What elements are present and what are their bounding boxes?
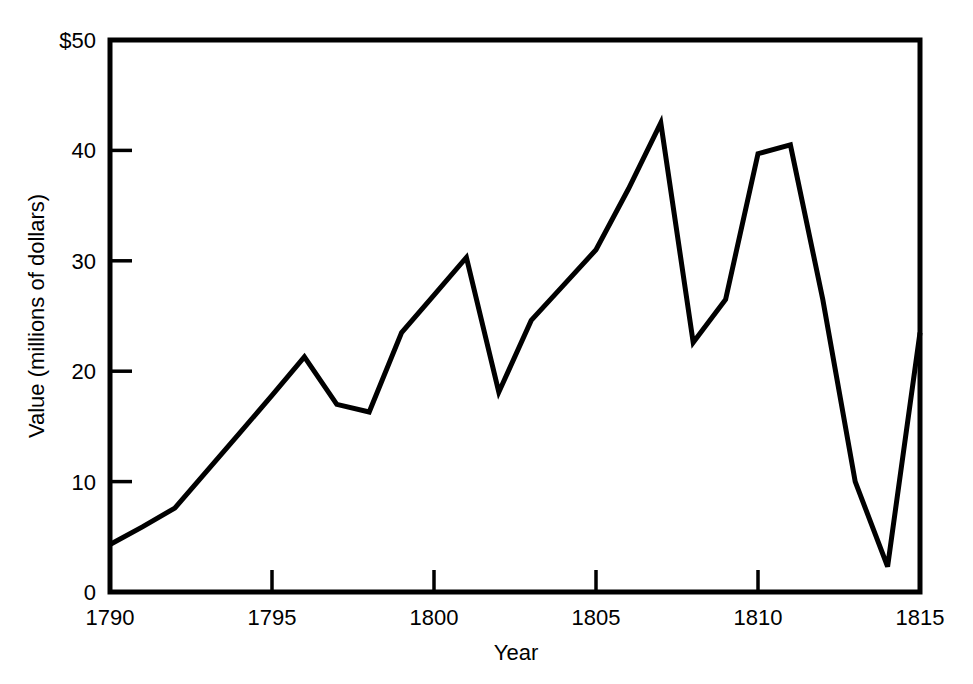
chart-figure: 010203040$50 179017951800180518101815 Ye… bbox=[0, 0, 973, 684]
y-tick-label-50: $50 bbox=[59, 28, 96, 53]
x-tick-label-1800: 1800 bbox=[410, 605, 459, 630]
y-axis-title: Value (millions of dollars) bbox=[24, 194, 49, 438]
x-tick-label-1795: 1795 bbox=[248, 605, 297, 630]
y-tick-label-40: 40 bbox=[72, 138, 96, 163]
x-tick-label-1790: 1790 bbox=[86, 605, 135, 630]
y-tick-label-10: 10 bbox=[72, 470, 96, 495]
x-axis-title: Year bbox=[494, 640, 538, 665]
x-tick-label-1805: 1805 bbox=[572, 605, 621, 630]
x-tick-label-1810: 1810 bbox=[734, 605, 783, 630]
y-tick-label-30: 30 bbox=[72, 249, 96, 274]
x-tick-label-1815: 1815 bbox=[896, 605, 945, 630]
y-tick-label-20: 20 bbox=[72, 359, 96, 384]
y-tick-label-0: 0 bbox=[84, 580, 96, 605]
line-chart-canvas: 010203040$50 179017951800180518101815 Ye… bbox=[0, 0, 973, 684]
